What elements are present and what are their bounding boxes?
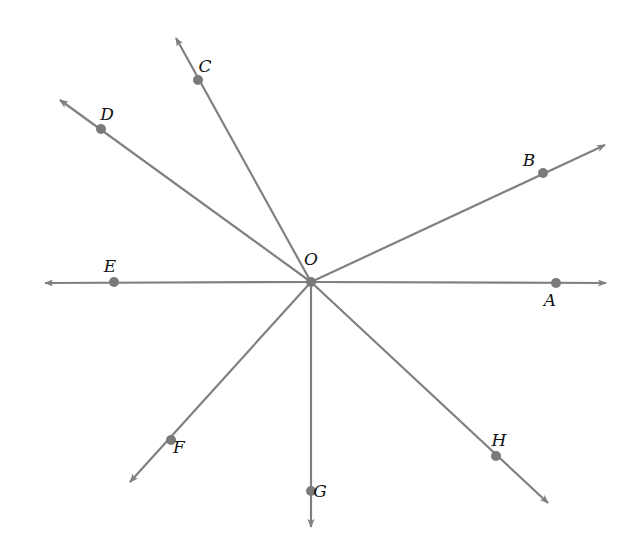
point-a	[551, 278, 561, 288]
label-o: O	[304, 249, 318, 269]
ray-oc	[176, 38, 311, 282]
label-f: F	[172, 437, 186, 457]
point-h	[491, 451, 501, 461]
label-e: E	[103, 256, 117, 276]
point-c	[193, 75, 203, 85]
label-c: C	[198, 56, 211, 76]
label-h: H	[491, 430, 508, 450]
ray-oh	[311, 282, 548, 503]
point-e	[109, 277, 119, 287]
label-b: B	[522, 150, 536, 170]
point-b	[538, 168, 548, 178]
point-o	[306, 277, 316, 287]
ray-oa	[311, 282, 606, 283]
label-a: A	[542, 290, 556, 310]
ray-oe	[45, 282, 311, 283]
ray-diagram: ABCDEFGHO	[0, 0, 630, 553]
labels-group: ABCDEFGHO	[99, 56, 556, 501]
point-d	[96, 124, 106, 134]
ray-ob	[311, 145, 605, 282]
rays-group	[45, 38, 606, 527]
label-g: G	[313, 481, 327, 501]
ray-of	[130, 282, 311, 482]
label-d: D	[99, 104, 114, 124]
